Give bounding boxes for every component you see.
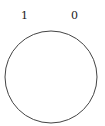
circle-diagram [0,0,105,126]
circle-shape [5,31,97,123]
